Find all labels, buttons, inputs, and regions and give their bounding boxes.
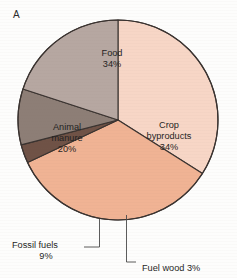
callout-labels: Fossil fuels 9% Fuel wood 3% xyxy=(12,240,200,273)
label-food-name: Food xyxy=(102,48,123,58)
label-crop-value: 34% xyxy=(160,142,178,152)
label-fossil-fuels-name: Fossil fuels xyxy=(12,240,58,250)
fossil-fuels-leader-line xyxy=(84,219,100,247)
pie-chart-svg: Food 34% Crop byproducts 34% Animal manu… xyxy=(0,0,237,278)
pie-chart-figure: A Food 34% Crop byproducts 34% Animal ma… xyxy=(0,0,237,278)
label-crop-name-2: byproducts xyxy=(147,131,192,141)
fuel-wood-leader-line xyxy=(127,215,137,262)
label-manure-name-2: manure xyxy=(51,133,82,143)
callout-leaders xyxy=(84,215,136,262)
label-fossil-fuels-value: 9% xyxy=(39,251,52,261)
label-manure-value: 20% xyxy=(58,144,76,154)
label-fuel-wood: Fuel wood 3% xyxy=(142,263,200,273)
label-manure-name-1: Animal xyxy=(53,122,81,132)
label-food-value: 34% xyxy=(103,59,121,69)
label-crop-name-1: Crop xyxy=(159,120,179,130)
